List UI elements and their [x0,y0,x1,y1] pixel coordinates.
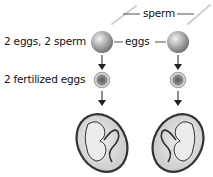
twin-diagram [0,0,213,177]
fertilized-egg-right [170,72,187,89]
sperm-streak-left [112,6,136,24]
sperm-label: sperm [143,7,175,19]
eggs-label: eggs [125,35,149,47]
embryo-left [67,105,138,177]
arrow-down-icon [98,91,182,106]
embryo-right [143,105,213,177]
egg-right [167,31,189,53]
sperm-streak-right [188,5,210,24]
arrow-down-icon [98,55,182,70]
fertilized-egg-left [94,72,111,89]
row-label-eggs-sperm: 2 eggs, 2 sperm [4,35,86,47]
egg-left [91,31,113,53]
row-label-fertilized: 2 fertilized eggs [4,73,85,85]
